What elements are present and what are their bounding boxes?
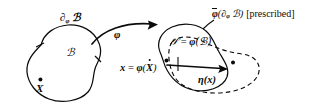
variation-arrow-shaft (167, 65, 222, 69)
prescribed-subscript: φ (226, 12, 230, 19)
material-point-symbol: X (36, 83, 43, 94)
prescribed-note: [prescribed] (246, 8, 294, 19)
partial-subscript: φ (65, 17, 69, 24)
paren-close: ) (153, 62, 157, 73)
equals-sign: = (181, 36, 187, 47)
reference-boundary-label: ∂φ ℬ (60, 12, 81, 24)
spatial-point-dot (165, 59, 169, 63)
eta-argument: (x) (204, 74, 216, 85)
reference-body-symbol: ℬ (72, 11, 81, 24)
deformation-map-arrow (92, 24, 152, 44)
prescribed-leader-line (203, 20, 214, 29)
prescribed-boundary-label: φ(∂φ ℬ) [prescribed] (212, 9, 295, 20)
prescribed-body: ℬ) (232, 8, 244, 19)
deformation-map-label: φ (114, 29, 120, 40)
prescribed-map-symbol: φ (212, 9, 218, 19)
current-config-symbol: 𝒮 (170, 35, 178, 47)
spatial-point-symbol: x (120, 62, 125, 73)
material-point-symbol-2: X (146, 63, 153, 74)
map-argument: (ℬ) (195, 35, 211, 47)
deformation-map-arrowhead (148, 20, 158, 29)
material-point-label: X (36, 83, 43, 94)
variation-field-label: η(x) (198, 75, 216, 86)
equals-sign-2: = (128, 62, 134, 73)
figure-canvas: ∂φ ℬ ℬ X φ 𝒮 = φ(ℬ) x = φ(X) η(x) φ(∂φ ℬ… (0, 0, 330, 112)
prescribed-paren-partial: (∂ (218, 8, 226, 19)
variation-tip-dot (231, 61, 235, 65)
spatial-point-label: x = φ(X) (120, 63, 157, 74)
reference-body-label: ℬ (66, 47, 75, 58)
current-config-label: 𝒮 = φ(ℬ) (170, 36, 212, 48)
